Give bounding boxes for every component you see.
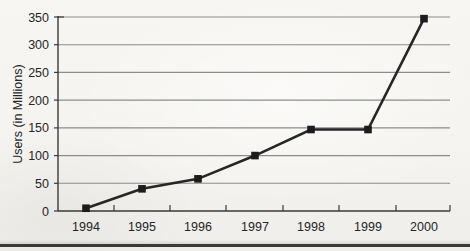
x-tick-label-1995: 1995 [128, 220, 156, 234]
data-point-marker [307, 126, 315, 134]
page-edge-line [0, 244, 470, 247]
x-tick-label-1994: 1994 [72, 220, 100, 234]
y-tick-label-100: 100 [28, 149, 49, 163]
data-point-marker [138, 185, 146, 193]
y-tick-label-300: 300 [28, 38, 49, 52]
y-tick-label-250: 250 [28, 66, 49, 80]
x-tick-label-1999: 1999 [354, 220, 382, 234]
x-tick-label-1997: 1997 [241, 220, 269, 234]
chart-figure: 350 300 250 200 150 100 50 0 1994 1995 1… [0, 0, 470, 251]
data-point-marker [82, 204, 90, 212]
y-tick-label-50: 50 [35, 177, 49, 191]
y-axis-title: Users (in Millions) [11, 64, 25, 163]
y-tick-label-0: 0 [42, 205, 49, 219]
data-point-marker [194, 175, 202, 183]
y-tick-label-350: 350 [28, 11, 49, 25]
x-tick-labels: 1994 1995 1996 1997 1998 1999 2000 [72, 220, 438, 234]
line-chart: 350 300 250 200 150 100 50 0 1994 1995 1… [0, 0, 470, 251]
series-line [86, 19, 424, 209]
data-point-marker [364, 126, 372, 134]
y-tick-labels: 350 300 250 200 150 100 50 0 [28, 11, 49, 219]
x-tick-label-2000: 2000 [410, 220, 438, 234]
x-tick-label-1998: 1998 [297, 220, 325, 234]
data-point-marker [420, 15, 428, 23]
data-point-marker [251, 152, 259, 160]
x-tick-marks [114, 205, 396, 211]
y-tick-label-200: 200 [28, 94, 49, 108]
x-tick-label-1996: 1996 [184, 220, 212, 234]
y-tick-label-150: 150 [28, 121, 49, 135]
